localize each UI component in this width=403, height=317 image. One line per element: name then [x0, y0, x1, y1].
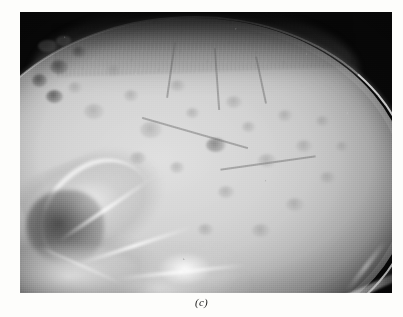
lytic-lesion	[32, 74, 47, 87]
lytic-lesion	[252, 224, 270, 237]
lytic-lesion	[336, 142, 348, 151]
lytic-lesion	[38, 40, 58, 52]
lytic-lesion	[218, 186, 234, 198]
figure-caption: (c)	[0, 296, 403, 308]
lytic-lesion	[226, 96, 242, 108]
lytic-lesion	[286, 198, 304, 211]
lytic-lesion	[124, 90, 138, 101]
lytic-lesion	[278, 110, 292, 121]
lytic-lesion	[242, 122, 255, 132]
hair-shadow	[53, 15, 355, 77]
lytic-lesion	[56, 36, 72, 46]
lytic-lesion	[206, 138, 226, 152]
lytic-lesion	[72, 46, 86, 57]
figure-page: (c)	[0, 0, 403, 317]
lytic-lesion	[170, 80, 185, 91]
lytic-lesion	[316, 116, 329, 126]
lytic-lesion	[46, 90, 63, 103]
lytic-lesion	[320, 172, 335, 183]
lytic-lesion	[296, 140, 312, 152]
lytic-lesion	[170, 162, 184, 173]
radiograph-plate	[20, 12, 392, 293]
lytic-lesion	[68, 82, 82, 93]
lytic-lesion	[50, 60, 68, 74]
lytic-lesion	[258, 154, 276, 167]
lytic-lesion	[198, 224, 213, 235]
lytic-lesion	[106, 64, 122, 76]
lytic-lesion	[84, 104, 104, 119]
lytic-lesion	[186, 108, 199, 118]
